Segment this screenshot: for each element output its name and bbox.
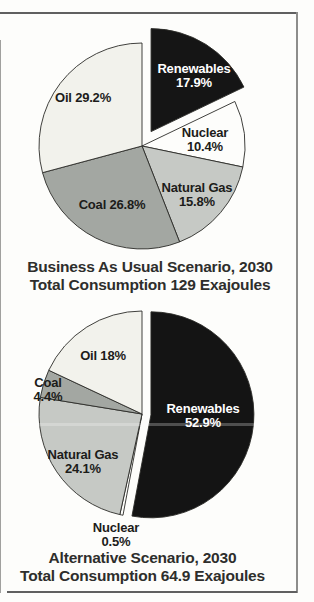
slice-label-text: Nuclear xyxy=(182,126,228,140)
slice-label-bau-nuclear: Nuclear 10.4% xyxy=(182,126,228,154)
slice-label-alt-renewables: Renewables 52.9% xyxy=(166,402,239,430)
chart-title: Alternative Scenario, 2030 xyxy=(0,549,285,567)
chart-subtitle: Total Consumption 129 Exajoules xyxy=(0,276,300,294)
slice-label-alt-oil: Oil 18% xyxy=(80,349,126,363)
slice-label-pct: 24.1% xyxy=(48,462,119,476)
slice-label-text: Nuclear xyxy=(93,521,139,535)
pie-charts-svg xyxy=(0,0,314,602)
chart-caption-bau: Business As Usual Scenario, 2030 Total C… xyxy=(0,258,300,293)
slice-label-bau-oil: Oil 29.2% xyxy=(55,91,111,105)
chart-subtitle: Total Consumption 64.9 Exajoules xyxy=(0,567,285,585)
slice-label-text: Natural Gas xyxy=(162,181,233,195)
slice-label-alt-coal: Coal 4.4% xyxy=(34,376,63,404)
slice-label-text: Renewables xyxy=(166,402,239,416)
chart-title: Business As Usual Scenario, 2030 xyxy=(0,258,300,276)
slice-label-pct: 0.5% xyxy=(93,535,139,549)
chart-caption-alt: Alternative Scenario, 2030 Total Consump… xyxy=(0,549,285,584)
slice-label-bau-coal: Coal 26.8% xyxy=(79,198,146,212)
slice-label-alt-nuclear: Nuclear 0.5% xyxy=(93,521,139,549)
slice-label-bau-natural-gas: Natural Gas 15.8% xyxy=(162,181,233,209)
slice-label-text: Renewables xyxy=(157,62,230,76)
slice-label-alt-natural-gas: Natural Gas 24.1% xyxy=(48,448,119,476)
slice-label-text: Oil 29.2% xyxy=(55,91,111,105)
slice-label-pct: 15.8% xyxy=(162,195,233,209)
slice-label-text: Coal 26.8% xyxy=(79,198,146,212)
slice-label-text: Oil 18% xyxy=(80,349,126,363)
slice-label-pct: 10.4% xyxy=(182,140,228,154)
figure-page: { "chart_data": [ { "type": "pie", "titl… xyxy=(0,0,314,602)
slice-label-pct: 4.4% xyxy=(34,390,63,404)
slice-label-text: Natural Gas xyxy=(48,448,119,462)
scan-line-artifact xyxy=(4,423,296,426)
slice-label-bau-renewables: Renewables 17.9% xyxy=(157,62,230,90)
slice-label-text: Coal xyxy=(34,376,63,390)
slice-label-pct: 52.9% xyxy=(166,416,239,430)
slice-label-pct: 17.9% xyxy=(157,76,230,90)
